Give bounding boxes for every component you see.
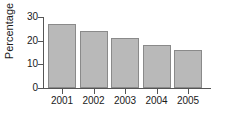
y-axis-tick (38, 17, 43, 18)
x-axis-tick (125, 89, 126, 94)
x-axis-line (43, 88, 211, 89)
x-axis-tick-label: 2003 (108, 95, 142, 107)
bar-chart: Percentage 0102030 20012002200320042005 (0, 0, 225, 114)
y-axis-tick-label-text: 30 (16, 12, 38, 22)
x-axis-tick (188, 89, 189, 94)
x-axis-tick-label: 2004 (140, 95, 174, 107)
x-axis-tick (62, 89, 63, 94)
x-axis-tick-label: 2002 (77, 95, 111, 107)
y-axis-tick-label-text: 10 (16, 59, 38, 69)
y-axis-tick-label: 10 (16, 59, 38, 69)
x-axis-tick-label: 2005 (171, 95, 205, 107)
y-axis-tick-label: 30 (16, 12, 38, 22)
y-axis-tick (38, 88, 43, 89)
bar (174, 50, 202, 88)
bar (80, 31, 108, 88)
x-axis-tick (157, 89, 158, 94)
y-axis-tick-label: 0 (16, 83, 38, 93)
y-axis-title: Percentage (2, 1, 16, 61)
bar (111, 38, 139, 88)
y-axis-tick-label-text: 20 (16, 36, 38, 46)
x-axis-tick-label: 2001 (45, 95, 79, 107)
x-axis-tick (94, 89, 95, 94)
y-axis-tick-label-text: 0 (16, 83, 38, 93)
y-axis-tick (38, 64, 43, 65)
y-axis-tick (38, 41, 43, 42)
y-axis-tick-label: 20 (16, 36, 38, 46)
bar (48, 24, 76, 88)
y-axis-line (43, 17, 44, 89)
bar (143, 45, 171, 88)
